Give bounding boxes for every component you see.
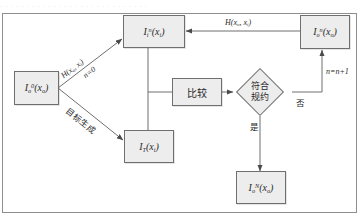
node-source-initial-label: Io0(xo) xyxy=(25,82,49,94)
node-intermediate-image-label: Iin(xi) xyxy=(143,26,164,38)
node-decision-label: 符合 规约 xyxy=(236,75,284,109)
node-target-image-label: IT(xi) xyxy=(139,141,159,153)
node-compare-label: 比较 xyxy=(187,85,207,100)
edge-label-increment: n=n+1 xyxy=(326,67,349,76)
node-output-final-label: IoN(xo) xyxy=(249,182,274,194)
figure-canvas: · · · · · · · · · · · · · · · · · · · · … xyxy=(0,0,360,215)
decision-line-2: 规约 xyxy=(251,92,269,103)
edge-label-branch-no: 否 xyxy=(296,96,305,108)
node-output-iteration-n-label: Ion(xo) xyxy=(313,26,337,38)
decision-line-1: 符合 xyxy=(251,81,269,92)
edge-label-branch-yes: 是 xyxy=(250,120,259,132)
node-intermediate-image[interactable]: Iin(xi) xyxy=(123,15,185,48)
edge-label-transfer-top: H(xo, xi) xyxy=(225,18,251,27)
node-output-final[interactable]: IoN(xo) xyxy=(236,171,286,204)
node-compare[interactable]: 比较 xyxy=(172,78,222,106)
cropped-caption-text: · · · · · · · · · · · · · · · · · · · · … xyxy=(0,0,360,13)
node-target-image[interactable]: IT(xi) xyxy=(124,130,174,163)
node-output-iteration-n[interactable]: Ion(xo) xyxy=(300,15,350,49)
node-source-initial[interactable]: Io0(xo) xyxy=(14,71,59,105)
